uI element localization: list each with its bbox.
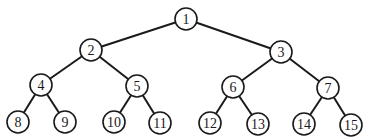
node-label: 13 <box>251 117 265 132</box>
node-label: 6 <box>230 80 237 95</box>
node-label: 2 <box>88 43 95 58</box>
tree-node-15: 15 <box>340 114 362 136</box>
tree-node-12: 12 <box>199 112 221 134</box>
tree-node-6: 6 <box>222 76 244 98</box>
node-label: 12 <box>203 116 217 131</box>
tree-edges <box>18 19 351 125</box>
tree-node-13: 13 <box>247 113 269 135</box>
tree-node-14: 14 <box>293 113 315 135</box>
tree-node-4: 4 <box>30 74 52 96</box>
tree-node-10: 10 <box>103 111 125 133</box>
tree-node-8: 8 <box>7 111 29 133</box>
node-label: 1 <box>183 12 190 27</box>
binary-tree-diagram: 123456789101112131415 <box>0 0 365 140</box>
node-label: 15 <box>344 118 358 133</box>
tree-node-7: 7 <box>317 77 339 99</box>
node-label: 11 <box>153 116 166 131</box>
tree-node-11: 11 <box>149 112 171 134</box>
tree-node-5: 5 <box>126 75 148 97</box>
node-label: 8 <box>15 115 22 130</box>
tree-node-1: 1 <box>175 8 197 30</box>
edge-1-3 <box>186 19 281 52</box>
node-label: 5 <box>134 79 141 94</box>
node-label: 4 <box>38 78 45 93</box>
tree-node-9: 9 <box>54 111 76 133</box>
node-label: 3 <box>278 45 285 60</box>
tree-node-2: 2 <box>80 39 102 61</box>
node-label: 10 <box>107 115 121 130</box>
tree-node-3: 3 <box>270 41 292 63</box>
edge-1-2 <box>91 19 186 50</box>
node-label: 14 <box>297 117 311 132</box>
node-label: 7 <box>325 81 332 96</box>
node-label: 9 <box>62 115 69 130</box>
